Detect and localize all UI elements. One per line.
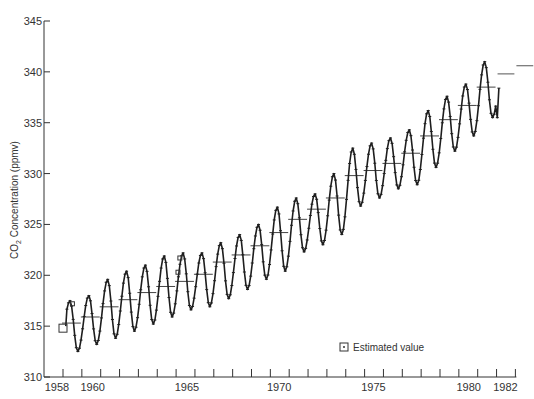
x-tick-label: 1958 xyxy=(45,381,69,393)
x-tick-label: 1960 xyxy=(80,381,104,393)
estimated-value-markers xyxy=(59,256,182,332)
y-tick-label: 330 xyxy=(24,168,42,180)
y-tick-label: 325 xyxy=(24,218,42,230)
y-tick-label: 345 xyxy=(24,15,42,27)
y-tick-label: 335 xyxy=(24,117,42,129)
estimated-value-icon-dot xyxy=(343,346,345,348)
legend-label: Estimated value xyxy=(353,342,425,353)
y-tick-label: 310 xyxy=(24,371,42,383)
y-axis-label: CO2 Concentration (ppmv) xyxy=(9,141,22,259)
x-tick-label: 1970 xyxy=(267,381,291,393)
x-tick-label: 1982 xyxy=(493,381,517,393)
x-tick-label: 1965 xyxy=(175,381,199,393)
monthly-co2-curve xyxy=(66,62,499,352)
co2-chart: 310315320325330335340345 195819601965197… xyxy=(0,0,534,399)
y-tick-label: 340 xyxy=(24,66,42,78)
x-tick-label: 1980 xyxy=(456,381,480,393)
annual-mean-lines xyxy=(62,66,533,323)
y-tick-label: 315 xyxy=(24,320,42,332)
y-tick-label: 320 xyxy=(24,269,42,281)
y-axis: 310315320325330335340345 xyxy=(24,15,50,383)
x-axis: 1958196019651970197519801982 xyxy=(44,369,518,393)
x-tick-label: 1975 xyxy=(361,381,385,393)
legend: Estimated value xyxy=(340,342,425,353)
